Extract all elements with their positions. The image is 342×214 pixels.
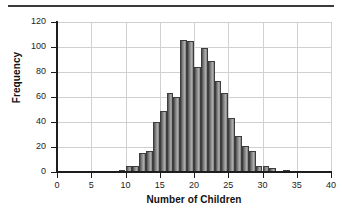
x-tick-label: 10 <box>111 180 141 190</box>
x-axis-label: Number of Children <box>57 194 331 205</box>
y-tick-label: 120 <box>0 17 46 26</box>
bars-layer <box>57 22 331 172</box>
x-tick-label: 35 <box>282 180 312 190</box>
gridline-vertical <box>331 22 332 172</box>
histogram-bar <box>146 151 153 172</box>
x-tick-mark <box>160 173 161 178</box>
y-tick-mark <box>51 47 57 48</box>
y-tick-label: 60 <box>0 92 46 101</box>
x-tick-mark <box>297 173 298 178</box>
x-tick-mark <box>57 173 58 178</box>
x-tick-label: 5 <box>76 180 106 190</box>
histogram-bar <box>194 67 201 172</box>
y-tick-mark <box>51 122 57 123</box>
histogram-bar <box>228 118 235 172</box>
histogram-bar <box>235 136 242 172</box>
x-tick-label: 30 <box>248 180 278 190</box>
y-tick-label: 0 <box>0 167 46 176</box>
y-tick-mark <box>51 147 57 148</box>
x-tick-mark <box>228 173 229 178</box>
histogram-bar <box>139 153 146 172</box>
x-tick-mark <box>194 173 195 178</box>
x-tick-mark <box>263 173 264 178</box>
x-tick-label: 0 <box>42 180 72 190</box>
x-tick-mark <box>91 173 92 178</box>
histogram-bar <box>180 40 187 173</box>
y-axis-label: Frequency <box>11 23 22 133</box>
y-tick-mark <box>51 97 57 98</box>
y-tick-mark <box>51 72 57 73</box>
histogram-bar <box>242 146 249 172</box>
x-tick-label: 25 <box>213 180 243 190</box>
plot-area <box>57 22 331 172</box>
histogram-bar <box>160 111 167 172</box>
histogram-bar <box>187 41 194 172</box>
histogram-bar <box>201 48 208 172</box>
plot-wrapper: Frequency 020406080100120 05101520253035… <box>0 0 342 214</box>
x-tick-label: 40 <box>316 180 342 190</box>
y-tick-label: 80 <box>0 67 46 76</box>
histogram-bar <box>221 93 228 172</box>
histogram-bar <box>153 122 160 172</box>
histogram-bar <box>215 81 222 172</box>
y-tick-label: 100 <box>0 42 46 51</box>
histogram-bar <box>173 97 180 172</box>
histogram-figure: Frequency 020406080100120 05101520253035… <box>0 0 342 214</box>
histogram-bar <box>167 93 174 172</box>
histogram-bar <box>208 61 215 172</box>
y-tick-mark <box>51 22 57 23</box>
histogram-bar <box>249 151 256 172</box>
y-tick-label: 40 <box>0 117 46 126</box>
x-tick-label: 20 <box>179 180 209 190</box>
x-tick-mark <box>331 173 332 178</box>
x-tick-label: 15 <box>145 180 175 190</box>
y-tick-label: 20 <box>0 142 46 151</box>
x-tick-mark <box>126 173 127 178</box>
